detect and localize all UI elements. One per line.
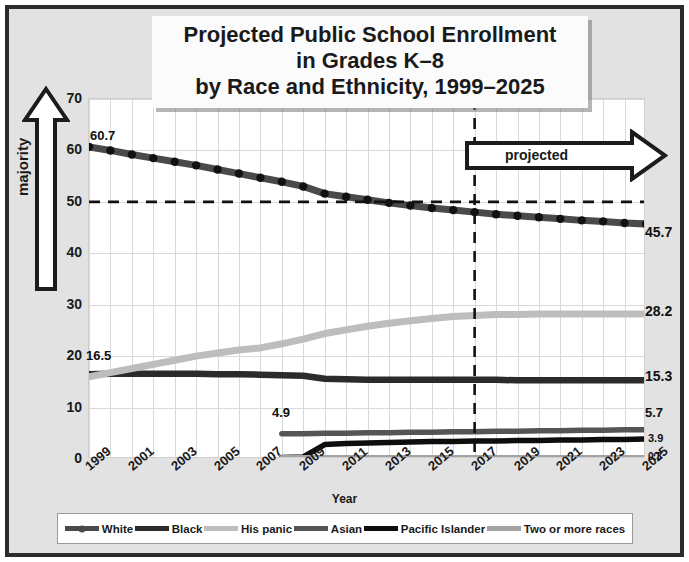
legend-swatch-icon: [487, 526, 521, 531]
series-line-his-panic: [89, 314, 645, 377]
legend-swatch-icon: [204, 526, 238, 531]
legend-item-his-panic[interactable]: His panic: [204, 523, 292, 535]
legend-item-black[interactable]: Black: [135, 523, 203, 535]
series-line-black: [89, 374, 645, 381]
legend-label: White: [102, 523, 133, 535]
legend-label: Black: [172, 523, 203, 535]
series-marker-white: [235, 169, 243, 177]
series-marker-white: [128, 150, 136, 158]
y-tick-label: 0: [74, 450, 82, 466]
chart-legend: WhiteBlackHis panicAsianPacific Islander…: [57, 513, 633, 544]
series-marker-white: [578, 216, 586, 224]
series-marker-white: [492, 210, 500, 218]
legend-item-two-or-more-races[interactable]: Two or more races: [487, 523, 625, 535]
y-tick-label: 20: [66, 347, 82, 363]
title-line-2: in Grades K–8: [162, 48, 578, 74]
end-label-hispanic: 28.2: [645, 303, 672, 319]
start-label-asian: 4.9: [272, 405, 290, 420]
series-marker-white: [449, 206, 457, 214]
legend-item-asian[interactable]: Asian: [294, 523, 362, 535]
legend-swatch-icon: [364, 526, 398, 531]
legend-item-pacific-islander[interactable]: Pacific Islander: [364, 523, 485, 535]
legend-label: Two or more races: [524, 523, 625, 535]
series-marker-white: [599, 217, 607, 225]
series-marker-white: [278, 178, 286, 186]
series-marker-white: [213, 165, 221, 173]
series-marker-white: [342, 193, 350, 201]
legend-swatch-icon: [65, 526, 99, 531]
series-marker-white: [192, 161, 200, 169]
legend-label: Asian: [331, 523, 362, 535]
title-line-1: Projected Public School Enrollment: [162, 22, 578, 48]
series-line-pacific-islander: [282, 439, 645, 458]
series-marker-white: [385, 199, 393, 207]
y-tick-label: 10: [66, 399, 82, 415]
chart-figure: 010203040506070 Percent 1999200120032005…: [0, 0, 689, 562]
end-label-pacific-islander: 3.9: [648, 432, 663, 444]
start-label-black: 16.5: [86, 348, 111, 363]
series-line-asian: [282, 430, 645, 434]
start-label-white: 60.7: [90, 128, 115, 143]
legend-item-white[interactable]: White: [65, 523, 133, 535]
chart-title: Projected Public School Enrollment in Gr…: [152, 16, 588, 108]
end-label-white: 45.7: [645, 224, 672, 240]
legend-swatch-icon: [135, 526, 169, 531]
series-marker-white: [320, 189, 328, 197]
y-tick-label: 30: [66, 296, 82, 312]
series-marker-white: [256, 173, 264, 181]
series-marker-white: [556, 215, 564, 223]
series-marker-white: [106, 146, 114, 154]
series-marker-white: [535, 213, 543, 221]
majority-label: majority: [14, 138, 31, 196]
end-label-asian: 5.7: [645, 405, 663, 420]
series-marker-white: [428, 204, 436, 212]
end-label-two-or-more: 0.3: [648, 451, 662, 462]
series-marker-white: [513, 212, 521, 220]
series-marker-white: [299, 182, 307, 190]
projected-label: projected: [505, 147, 568, 163]
legend-label: Pacific Islander: [401, 523, 485, 535]
x-axis-label: Year: [0, 492, 689, 506]
end-label-black: 15.3: [645, 368, 672, 384]
series-marker-white: [620, 219, 628, 227]
series-marker-white: [170, 158, 178, 166]
legend-swatch-icon: [294, 526, 328, 531]
series-marker-white: [149, 154, 157, 162]
legend-label: His panic: [241, 523, 292, 535]
title-line-3: by Race and Ethnicity, 1999–2025: [162, 74, 578, 100]
